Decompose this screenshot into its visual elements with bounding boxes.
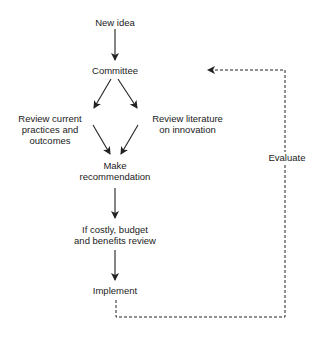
feedback-label-evaluate: Evaluate <box>262 152 312 163</box>
flowchart-connectors <box>0 0 320 337</box>
node-implement: Implement <box>85 285 145 296</box>
arrow-committee-review-current <box>94 79 111 108</box>
arrow-committee-review-lit <box>118 79 137 108</box>
feedback-loop-dashed <box>116 70 285 317</box>
arrow-review-current-make <box>93 125 110 154</box>
node-committee: Committee <box>80 65 150 76</box>
node-new-idea: New idea <box>90 17 140 28</box>
arrow-review-lit-make <box>121 125 138 154</box>
